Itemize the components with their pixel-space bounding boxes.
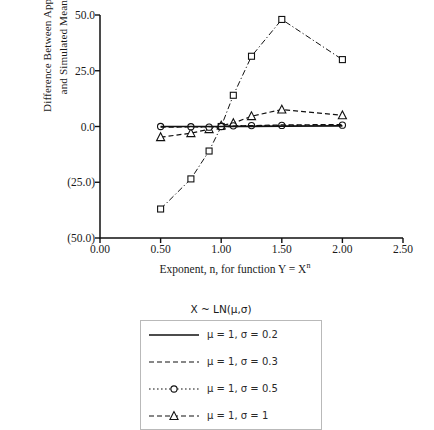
x-axis-title-text: Exponent, n, for function Y = X [160, 263, 307, 275]
plot-canvas [0, 0, 434, 300]
legend-label: μ = 1, σ = 0.3 [207, 356, 278, 367]
data-point-square [339, 57, 345, 63]
data-point-square [279, 16, 285, 22]
data-point-triangle [338, 111, 346, 119]
legend-item[interactable]: μ = 1, σ = 1 [141, 402, 321, 429]
legend-line-sample [141, 403, 207, 429]
legend-title: X ~ LN(μ,σ) [140, 303, 302, 315]
data-point-square [230, 92, 236, 98]
legend-item[interactable]: μ = 1, σ = 0.2 [141, 321, 321, 348]
data-point-square [188, 176, 194, 182]
x-axis-title-exponent: n [306, 261, 310, 270]
legend-line-sample [141, 376, 207, 402]
data-series [161, 126, 343, 127]
legend-item[interactable]: μ = 1, σ = 0.5 [141, 375, 321, 402]
legend-item[interactable]: μ = 1, σ = 0.3 [141, 348, 321, 375]
legend-label: μ = 1, σ = 1 [207, 410, 268, 421]
data-point-square [206, 148, 212, 154]
data-point-triangle [278, 105, 286, 113]
legend-line-sample [141, 322, 207, 348]
data-point-square [249, 53, 255, 59]
data-series-group [157, 16, 347, 212]
data-point-square [158, 206, 164, 212]
legend-box: μ = 1, σ = 0.2μ = 1, σ = 0.3μ = 1, σ = 0… [140, 320, 322, 430]
data-point-circle [171, 385, 177, 391]
legend-label: μ = 1, σ = 0.2 [207, 329, 278, 340]
series-line [161, 126, 343, 127]
legend-label: μ = 1, σ = 0.5 [207, 383, 278, 394]
x-axis-title: Exponent, n, for function Y = Xn [60, 261, 410, 275]
legend-line-sample [141, 349, 207, 375]
axis-ticks-group [95, 15, 403, 243]
